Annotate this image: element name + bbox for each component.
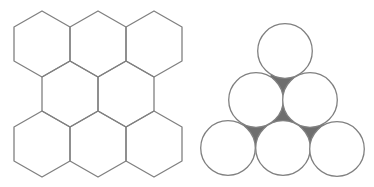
figure: Honeycomb packing of 8 regular hexagons … [0,0,374,187]
hexagon [42,61,98,127]
hexagon [14,111,70,177]
hexagon [14,11,70,77]
hexagon [70,111,126,177]
circle [229,73,284,128]
circle [256,121,311,176]
circle [258,24,313,79]
hexagon [126,11,182,77]
hexagon [98,61,154,127]
circle [201,121,256,176]
circle [283,73,338,128]
circle [310,122,365,177]
hexagon-tiling-panel [14,11,182,177]
hexagon [70,11,126,77]
circles [201,24,365,177]
hexagon [126,111,182,177]
packing-diagram [0,0,374,187]
circle-packing-panel [201,24,365,177]
